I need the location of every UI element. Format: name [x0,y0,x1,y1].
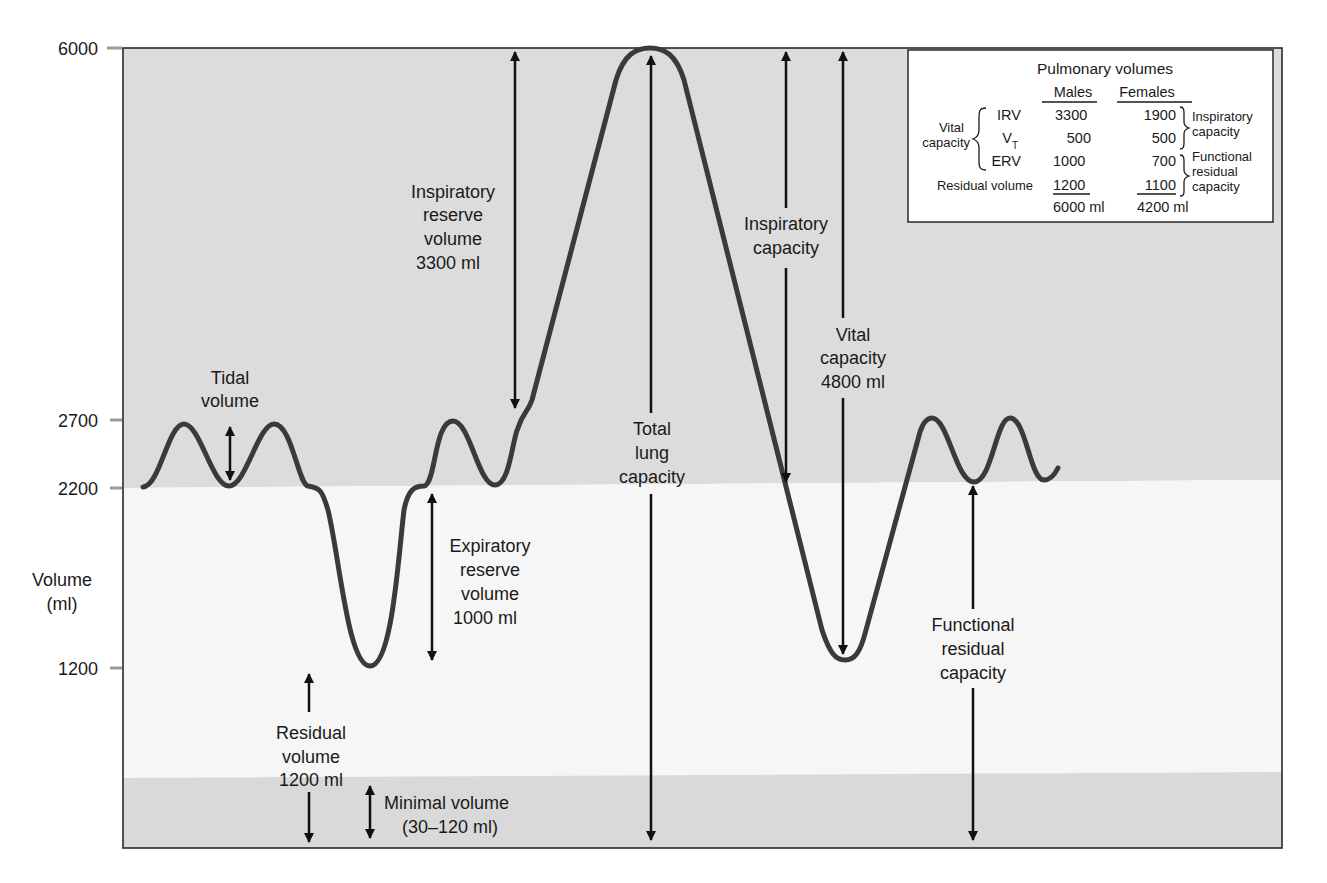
erv-label-3: volume [461,584,519,604]
erv-label: Expiratory [449,536,530,556]
legend-total-females: 4200 ml [1137,199,1189,215]
frc-label: Functional [931,615,1014,635]
tlc-label-3: capacity [619,467,685,487]
y-axis-label-unit: (ml) [47,594,78,614]
legend-row-rv-males: 1200 [1053,177,1085,193]
legend-row-erv-males: 1000 [1053,153,1085,169]
legend-row-rv-females: 1100 [1145,177,1176,193]
residual-volume-label-2: volume [282,747,340,767]
frc-label-3: capacity [940,663,1006,683]
legend-row-rv-label: Residual volume [937,178,1033,193]
y-tick-1200: 1200 [58,659,98,679]
frc-label-2: residual [941,639,1004,659]
erv-label-4: 1000 ml [453,608,517,628]
residual-volume-label: Residual [276,723,346,743]
vc-label: Vital [836,325,871,345]
minimal-volume-label-2: (30–120 ml) [402,817,498,837]
legend-brace-frc-label-2: residual [1192,164,1238,179]
vc-label-2: capacity [820,348,886,368]
legend: Pulmonary volumes Males Females Vital ca… [908,50,1273,222]
residual-volume-label-3: 1200 ml [279,770,343,790]
irv-label-4: 3300 ml [416,253,480,273]
lung-volumes-figure: 6000 2700 2200 1200 Volume (ml) Tidal vo… [0,0,1327,883]
irv-label: Inspiratory [411,182,495,202]
legend-group-vital: Vital [939,120,964,135]
legend-row-erv-females: 700 [1152,153,1176,169]
ic-label-2: capacity [753,238,819,258]
y-axis: 6000 2700 2200 1200 Volume (ml) [32,39,122,679]
legend-brace-inspiratory-label-2: capacity [1192,124,1240,139]
tlc-label: Total [633,419,671,439]
legend-brace-frc-label: Functional [1192,149,1252,164]
y-tick-6000: 6000 [58,39,98,59]
legend-title: Pulmonary volumes [1037,60,1173,77]
legend-brace-frc-label-3: capacity [1192,179,1240,194]
legend-col-males: Males [1054,84,1093,100]
legend-col-females: Females [1119,84,1175,100]
legend-row-erv-label: ERV [991,153,1021,169]
tidal-volume-label-2: volume [201,391,259,411]
tidal-volume-label: Tidal [211,368,249,388]
legend-row-irv-label: IRV [997,107,1021,123]
legend-brace-inspiratory-label: Inspiratory [1192,109,1253,124]
erv-label-2: reserve [460,560,520,580]
minimal-volume-label: Minimal volume [384,793,509,813]
ic-label: Inspiratory [744,214,828,234]
legend-row-vt-females: 500 [1152,130,1176,146]
tlc-label-2: lung [635,443,669,463]
legend-total-males: 6000 ml [1053,199,1105,215]
irv-label-3: volume [424,229,482,249]
y-tick-2700: 2700 [58,411,98,431]
legend-row-irv-females: 1900 [1144,107,1176,123]
legend-group-vital-2: capacity [922,135,970,150]
irv-label-2: reserve [423,205,483,225]
y-tick-2200: 2200 [58,479,98,499]
legend-row-vt-label: V [1002,130,1012,146]
legend-row-vt-subscript: T [1012,140,1018,151]
vc-label-3: 4800 ml [821,372,885,392]
legend-row-irv-males: 3300 [1055,107,1087,123]
legend-row-vt-males: 500 [1067,130,1091,146]
y-axis-label: Volume [32,570,92,590]
